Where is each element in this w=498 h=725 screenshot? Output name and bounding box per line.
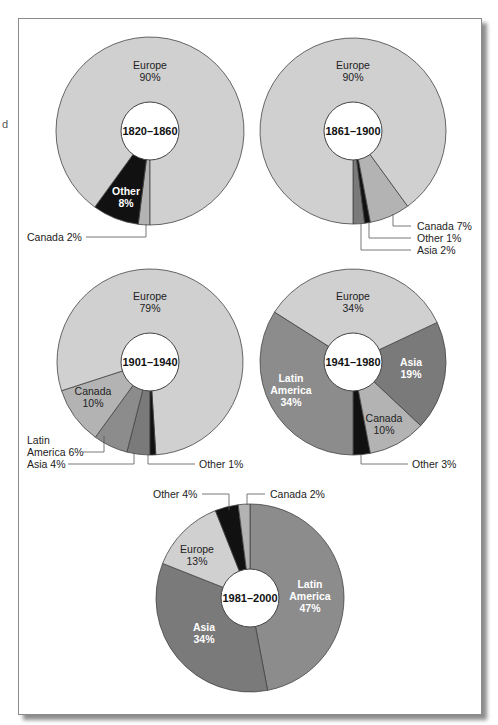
p2-canada-label: Canada 7% bbox=[417, 220, 472, 232]
p3-canada-pct: 10% bbox=[82, 397, 103, 409]
p3-asia-label: Asia 4% bbox=[27, 458, 66, 470]
p4-europe-pct: 34% bbox=[342, 302, 363, 314]
p4-europe-name: Europe bbox=[336, 290, 370, 302]
p3-other-label: Other 1% bbox=[199, 458, 243, 470]
leader-p3-other bbox=[148, 454, 195, 464]
p5-center-label: 1981–2000 bbox=[222, 592, 277, 604]
leader-p5-canada bbox=[247, 494, 265, 505]
leader-p2-asia bbox=[361, 223, 411, 250]
p5-latin-pct: 47% bbox=[299, 602, 321, 614]
p3-latin-line2: America 6% bbox=[27, 446, 84, 458]
p2-center-label: 1861–1900 bbox=[325, 125, 380, 137]
p3-center-label: 1901–1940 bbox=[122, 356, 177, 368]
p4-other-label: Other 3% bbox=[412, 458, 456, 470]
p3-europe-name: Europe bbox=[133, 290, 167, 302]
leader-p2-canada bbox=[393, 214, 411, 226]
p3-europe-pct: 79% bbox=[139, 302, 160, 314]
p2-europe-name: Europe bbox=[336, 59, 370, 71]
p5-europe-name: Europe bbox=[180, 543, 214, 555]
p4-latin-line1: Latin bbox=[278, 372, 303, 384]
p5-asia-pct: 34% bbox=[193, 633, 215, 645]
leader-p1-canada bbox=[86, 224, 146, 237]
p4-canada-name: Canada bbox=[366, 412, 403, 424]
p5-latin-line1: Latin bbox=[297, 578, 322, 590]
p4-asia-name: Asia bbox=[400, 356, 422, 368]
p5-asia-name: Asia bbox=[193, 621, 215, 633]
p4-canada-pct: 10% bbox=[373, 424, 394, 436]
p1-other-name: Other bbox=[112, 185, 140, 197]
p4-latin-line2: America bbox=[270, 384, 312, 396]
p3-canada-name: Canada bbox=[75, 385, 112, 397]
p4-center-label: 1941–1980 bbox=[325, 356, 380, 368]
donut-charts: Europe 90% 1820–1860 Other 8% Canada 2% … bbox=[0, 0, 498, 725]
p2-other-label: Other 1% bbox=[417, 232, 461, 244]
p3-latin-line1: Latin bbox=[27, 434, 50, 446]
p4-latin-pct: 34% bbox=[280, 396, 302, 408]
p1-europe-pct: 90% bbox=[139, 71, 160, 83]
p5-other-label: Other 4% bbox=[153, 488, 197, 500]
p5-canada-label: Canada 2% bbox=[270, 488, 325, 500]
p1-center-label: 1820–1860 bbox=[122, 125, 177, 137]
p5-latin-line2: America bbox=[289, 590, 331, 602]
p2-asia-label: Asia 2% bbox=[417, 244, 456, 256]
leader-p2-other bbox=[369, 222, 411, 238]
p1-europe-name: Europe bbox=[133, 59, 167, 71]
p4-asia-pct: 19% bbox=[400, 368, 422, 380]
p1-canada-label: Canada 2% bbox=[27, 231, 82, 243]
p5-europe-pct: 13% bbox=[186, 555, 207, 567]
p1-other-pct: 8% bbox=[118, 197, 134, 209]
p2-europe-pct: 90% bbox=[342, 71, 363, 83]
leader-p4-other bbox=[361, 454, 408, 464]
